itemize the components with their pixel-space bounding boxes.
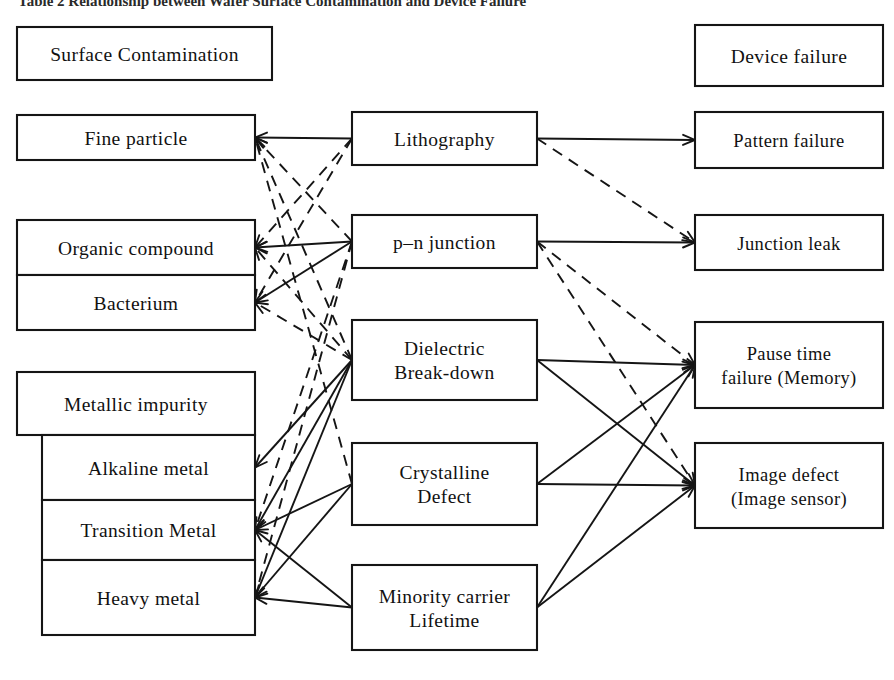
box-label-line: Organic compound — [58, 238, 214, 259]
box-label-line: Dielectric — [404, 338, 485, 359]
box-label-line: Fine particle — [84, 128, 187, 149]
mechanism-box-pn-junction[interactable]: p–n junction — [352, 215, 537, 268]
box-label-line: Pause time — [747, 344, 832, 364]
link-dielectric-to-organic-compound — [255, 248, 352, 361]
failure-box-pause-time[interactable]: Pause timefailure (Memory) — [695, 322, 883, 408]
mechanism-box-minority-carrier[interactable]: Minority carrierLifetime — [352, 565, 537, 650]
figure-canvas: Table 2 Relationship between Wafer Surfa… — [0, 0, 894, 680]
contaminant-box-organic-compound[interactable]: Organic compound — [17, 220, 255, 275]
column-header-device-failure[interactable]: Device failure — [695, 25, 883, 86]
figure-title: Table 2 Relationship between Wafer Surfa… — [18, 0, 527, 9]
box-outline — [695, 443, 883, 528]
relationship-diagram: Table 2 Relationship between Wafer Surfa… — [0, 0, 894, 680]
box-label-line: Device failure — [731, 46, 848, 67]
box-label-line: Image defect — [739, 465, 840, 485]
box-label-line: Heavy metal — [97, 588, 201, 609]
box-label-line: Break-down — [394, 362, 494, 383]
arrowhead — [255, 303, 268, 314]
box-label-line: Transition Metal — [80, 520, 216, 541]
column-header-surface-contamination[interactable]: Surface Contamination — [17, 27, 272, 80]
box-outline — [352, 443, 537, 525]
box-outline — [352, 565, 537, 650]
link-dielectric-to-fine-particle — [255, 138, 352, 361]
link-lithography-to-organic-compound — [255, 139, 352, 248]
contaminant-box-transition-metal[interactable]: Transition Metal — [42, 500, 255, 560]
box-outline — [352, 320, 537, 400]
contaminant-box-fine-particle[interactable]: Fine particle — [17, 115, 255, 160]
box-label-line: Surface Contamination — [50, 44, 239, 65]
link-lithography-to-fine-particle — [255, 133, 352, 143]
box-label-line: p–n junction — [393, 232, 496, 253]
mechanism-box-lithography[interactable]: Lithography — [352, 112, 537, 165]
contaminant-box-bacterium[interactable]: Bacterium — [17, 275, 255, 330]
link-pn-junction-to-pause-time — [537, 242, 695, 366]
box-label-line: Minority carrier — [379, 586, 511, 607]
mechanism-box-crystalline-defect[interactable]: CrystallineDefect — [352, 443, 537, 525]
box-label-line: failure (Memory) — [721, 368, 856, 389]
link-lithography-to-pattern-failure — [537, 135, 695, 145]
contaminant-box-metallic-impurity[interactable]: Metallic impurity — [17, 372, 255, 435]
contaminant-box-heavy-metal[interactable]: Heavy metal — [42, 560, 255, 635]
failure-box-pattern-failure[interactable]: Pattern failure — [695, 112, 883, 168]
box-label-line: Alkaline metal — [88, 458, 209, 479]
link-minority-carrier-to-image-defect — [537, 486, 695, 608]
failure-box-junction-leak[interactable]: Junction leak — [695, 215, 883, 270]
link-dielectric-to-transition-metal — [255, 360, 352, 530]
box-outline — [695, 322, 883, 408]
box-label-line: Crystalline — [400, 462, 490, 483]
box-label-line: Bacterium — [94, 293, 179, 314]
link-pn-junction-to-junction-leak — [537, 237, 695, 247]
box-label-line: Lithography — [394, 129, 495, 150]
box-label-line: Metallic impurity — [64, 394, 208, 415]
link-lithography-to-junction-leak — [537, 139, 695, 243]
link-crystalline-defect-to-transition-metal — [255, 484, 352, 530]
box-label-line: Pattern failure — [733, 131, 844, 151]
mechanism-box-dielectric[interactable]: DielectricBreak-down — [352, 320, 537, 400]
link-dielectric-to-alkaline-metal — [255, 360, 352, 468]
link-dielectric-to-pause-time — [537, 360, 695, 370]
contaminant-box-alkaline-metal[interactable]: Alkaline metal — [42, 435, 255, 500]
box-label-line: (Image sensor) — [731, 489, 847, 510]
node-boxes-layer: Surface ContaminationDevice failureFine … — [17, 25, 883, 650]
box-label-line: Junction leak — [737, 234, 841, 254]
box-label-line: Lifetime — [409, 610, 479, 631]
link-lithography-to-bacterium — [255, 139, 352, 303]
figure-title-layer: Table 2 Relationship between Wafer Surfa… — [18, 0, 527, 9]
link-dielectric-to-heavy-metal — [255, 360, 352, 598]
link-minority-carrier-to-pause-time — [537, 365, 695, 608]
failure-box-image-defect[interactable]: Image defect(Image sensor) — [695, 443, 883, 528]
box-label-line: Defect — [417, 486, 472, 507]
